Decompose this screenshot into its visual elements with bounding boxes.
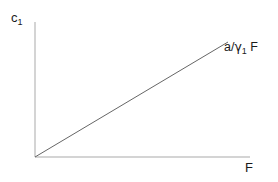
- annotation-suffix: F: [247, 40, 258, 54]
- x-axis-label: F: [245, 161, 253, 174]
- gamma-symbol: γ: [234, 39, 241, 54]
- proportional-relationship-diagram: c1 F a/γ1 F: [0, 0, 278, 182]
- line-equation-annotation: a/γ1 F: [224, 41, 258, 54]
- plot-canvas: [0, 0, 278, 182]
- annotation-subscript: 1: [242, 46, 247, 56]
- y-axis-label-subscript: 1: [18, 17, 23, 27]
- proportional-line: [35, 42, 228, 157]
- y-axis-label: c1: [11, 11, 23, 24]
- annotation-prefix: a/: [224, 40, 234, 54]
- y-axis-label-text: c: [11, 10, 18, 25]
